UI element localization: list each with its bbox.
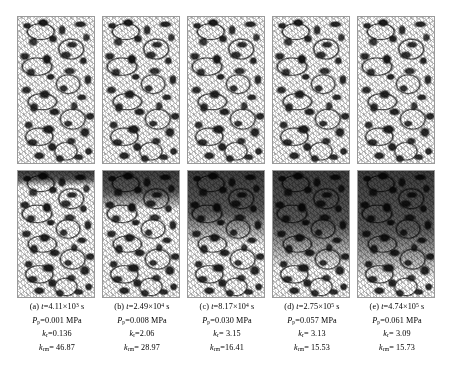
panel-label: (a) bbox=[30, 302, 39, 311]
caption-pressure-line: Pp=0.008 MPa bbox=[99, 314, 185, 328]
pressure-value: =0.030 MPa bbox=[210, 316, 252, 325]
panel-caption-e: (e) t=4.74×105 sPp=0.061 MPakr= 3.09krm=… bbox=[354, 300, 440, 354]
time-exponent: 4 bbox=[161, 302, 164, 308]
grain-speckle bbox=[273, 17, 349, 163]
kr-value: = 3.15 bbox=[219, 329, 241, 338]
grain-speckle bbox=[188, 17, 264, 163]
time-mantissa: 2.49 bbox=[133, 302, 148, 311]
caption-kr-line: kr=0.136 bbox=[14, 327, 100, 341]
saturation-image-e bbox=[357, 170, 435, 298]
caption-kr-line: kr= 3.13 bbox=[269, 327, 355, 341]
time-mantissa: 8.17 bbox=[218, 302, 233, 311]
caption-krm-line: krm= 15.73 bbox=[354, 341, 440, 355]
panel-label: (e) bbox=[370, 302, 379, 311]
krm-value: =16.41 bbox=[220, 343, 244, 352]
caption-pressure-line: Pp=0.001 MPa bbox=[14, 314, 100, 328]
caption-time-line: (b) t=2.49×104 s bbox=[99, 300, 185, 314]
caption-pressure-line: Pp=0.030 MPa bbox=[184, 314, 270, 328]
panel-label: (b) bbox=[114, 302, 124, 311]
pressure-value: =0.008 MPa bbox=[125, 316, 167, 325]
time-unit: s bbox=[251, 302, 254, 311]
time-exponent: 3 bbox=[76, 302, 79, 308]
grain-speckle bbox=[103, 17, 179, 163]
caption-pressure-line: Pp=0.057 MPa bbox=[269, 314, 355, 328]
krm-value: = 15.73 bbox=[389, 343, 415, 352]
pressure-value: =0.057 MPa bbox=[295, 316, 337, 325]
pore-structure-image-d bbox=[272, 16, 350, 164]
caption-krm-line: krm=16.41 bbox=[184, 341, 270, 355]
pore-structure-image-b bbox=[102, 16, 180, 164]
krm-value: = 46.87 bbox=[49, 343, 75, 352]
pressure-value: =0.061 MPa bbox=[380, 316, 422, 325]
pore-structure-image-c bbox=[187, 16, 265, 164]
invasion-front-overlay bbox=[103, 171, 179, 209]
panel-column-e: (e) t=4.74×105 sPp=0.061 MPakr= 3.09krm=… bbox=[354, 0, 440, 389]
panel-caption-c: (c) t=8.17×104 sPp=0.030 MPakr= 3.15krm=… bbox=[184, 300, 270, 354]
panel-column-a: (a) t=4.11×103 sPp=0.001 MPakr=0.136krm=… bbox=[14, 0, 100, 389]
caption-pressure-line: Pp=0.061 MPa bbox=[354, 314, 440, 328]
time-mantissa: 4.74 bbox=[388, 302, 403, 311]
saturation-image-b bbox=[102, 170, 180, 298]
time-unit: s bbox=[421, 302, 424, 311]
time-unit: s bbox=[336, 302, 339, 311]
invasion-front-overlay bbox=[188, 171, 264, 244]
saturation-image-c bbox=[187, 170, 265, 298]
pressure-value: =0.001 MPa bbox=[40, 316, 82, 325]
kr-value: = 3.13 bbox=[304, 329, 326, 338]
saturation-image-a bbox=[17, 170, 95, 298]
grain-speckle bbox=[358, 17, 434, 163]
time-mantissa: 2.75 bbox=[303, 302, 318, 311]
panel-column-b: (b) t=2.49×104 sPp=0.008 MPakr=2.06krm= … bbox=[99, 0, 185, 389]
kr-value: =2.06 bbox=[135, 329, 154, 338]
figure-panel-series: (a) t=4.11×103 sPp=0.001 MPakr=0.136krm=… bbox=[0, 0, 454, 389]
pore-structure-image-e bbox=[357, 16, 435, 164]
time-mantissa: 4.11 bbox=[48, 302, 62, 311]
invasion-front-overlay bbox=[18, 171, 94, 186]
panel-label: (d) bbox=[284, 302, 294, 311]
panel-caption-a: (a) t=4.11×103 sPp=0.001 MPakr=0.136krm=… bbox=[14, 300, 100, 354]
caption-kr-line: kr= 3.15 bbox=[184, 327, 270, 341]
kr-value: = 3.09 bbox=[389, 329, 411, 338]
time-exponent: 5 bbox=[416, 302, 419, 308]
krm-value: = 28.97 bbox=[134, 343, 160, 352]
time-base: 10 bbox=[68, 302, 76, 311]
panel-caption-d: (d) t=2.75×105 sPp=0.057 MPakr= 3.13krm=… bbox=[269, 300, 355, 354]
time-exponent: 4 bbox=[246, 302, 249, 308]
caption-time-line: (d) t=2.75×105 s bbox=[269, 300, 355, 314]
panel-label: (c) bbox=[200, 302, 209, 311]
caption-kr-line: kr= 3.09 bbox=[354, 327, 440, 341]
time-base: 10 bbox=[408, 302, 416, 311]
krm-value: = 15.53 bbox=[304, 343, 330, 352]
grain-speckle bbox=[18, 17, 94, 163]
panel-caption-b: (b) t=2.49×104 sPp=0.008 MPakr=2.06krm= … bbox=[99, 300, 185, 354]
time-unit: s bbox=[166, 302, 169, 311]
kr-value: =0.136 bbox=[48, 329, 72, 338]
caption-time-line: (e) t=4.74×105 s bbox=[354, 300, 440, 314]
caption-time-line: (a) t=4.11×103 s bbox=[14, 300, 100, 314]
panel-column-c: (c) t=8.17×104 sPp=0.030 MPakr= 3.15krm=… bbox=[184, 0, 270, 389]
invasion-front-overlay bbox=[358, 171, 434, 277]
caption-kr-line: kr=2.06 bbox=[99, 327, 185, 341]
caption-krm-line: krm= 46.87 bbox=[14, 341, 100, 355]
panel-column-d: (d) t=2.75×105 sPp=0.057 MPakr= 3.13krm=… bbox=[269, 0, 355, 389]
time-exponent: 5 bbox=[331, 302, 334, 308]
grain-speckle bbox=[18, 171, 94, 297]
time-unit: s bbox=[81, 302, 84, 311]
saturation-image-d bbox=[272, 170, 350, 298]
caption-time-line: (c) t=8.17×104 s bbox=[184, 300, 270, 314]
caption-krm-line: krm= 28.97 bbox=[99, 341, 185, 355]
caption-krm-line: krm= 15.53 bbox=[269, 341, 355, 355]
time-base: 10 bbox=[238, 302, 246, 311]
invasion-front-overlay bbox=[273, 171, 349, 267]
pore-structure-image-a bbox=[17, 16, 95, 164]
